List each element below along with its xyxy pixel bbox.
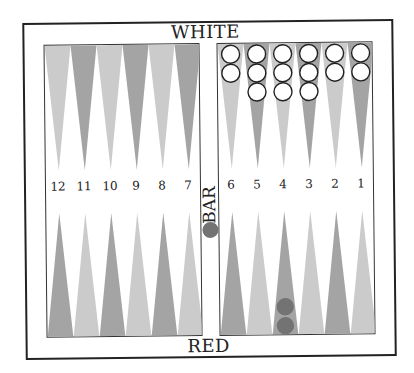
point-number: 11 [71, 179, 97, 193]
point-number: 12 [45, 179, 71, 193]
white-checker[interactable] [248, 45, 266, 63]
point-3[interactable] [297, 211, 324, 336]
point-top-left-2[interactable] [70, 45, 97, 170]
point-top-left-5[interactable] [148, 44, 175, 169]
white-checker[interactable] [300, 82, 318, 100]
white-checker[interactable] [248, 64, 266, 82]
white-checker[interactable] [326, 44, 344, 62]
point-number: 8 [149, 178, 175, 192]
point-top-left-3[interactable] [96, 45, 123, 170]
point-8[interactable] [150, 212, 177, 337]
white-checker[interactable] [300, 44, 318, 62]
white-checker[interactable] [274, 45, 292, 63]
point-9[interactable] [124, 213, 151, 338]
point-number: 10 [97, 179, 123, 193]
white-checker[interactable] [351, 44, 369, 62]
white-checker[interactable] [222, 64, 240, 82]
white-checker[interactable] [326, 63, 344, 81]
white-checker[interactable] [274, 83, 292, 101]
point-10[interactable] [98, 213, 125, 338]
point-number: 4 [270, 177, 296, 191]
point-top-left-6[interactable] [174, 44, 201, 169]
point-number: 7 [175, 178, 201, 192]
white-checker[interactable] [300, 63, 318, 81]
white-checker[interactable] [352, 63, 370, 81]
point-1[interactable] [349, 210, 375, 335]
white-checker[interactable] [248, 83, 266, 101]
point-5[interactable] [245, 211, 272, 336]
white-side-label: WHITE [0, 19, 412, 44]
backgammon-scene: WHITE RED BAR 121110987 654321 [0, 0, 414, 373]
point-12[interactable] [46, 213, 73, 337]
red-checker-on-bar[interactable] [202, 222, 218, 238]
point-11[interactable] [72, 213, 99, 338]
white-checker[interactable] [222, 45, 240, 63]
point-number: 3 [296, 177, 322, 191]
point-top-left-4[interactable] [122, 45, 149, 170]
white-checker[interactable] [274, 64, 292, 82]
point-number: 1 [348, 176, 374, 190]
point-number: 5 [244, 177, 270, 191]
point-6[interactable] [219, 212, 246, 336]
point-number: 6 [218, 178, 244, 192]
bar-label-text: BAR [199, 186, 219, 224]
point-2[interactable] [323, 211, 350, 336]
point-number: 2 [322, 177, 348, 191]
point-top-left-1[interactable] [45, 45, 72, 170]
point-number: 9 [123, 179, 149, 193]
point-7[interactable] [176, 212, 202, 337]
